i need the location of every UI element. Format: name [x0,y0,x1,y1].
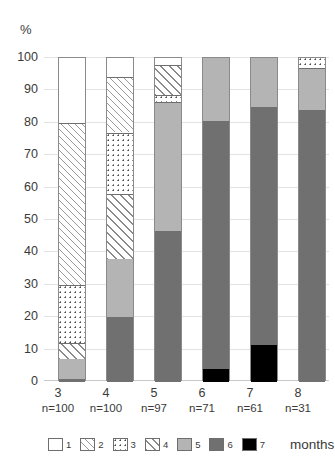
gridline-60 [44,187,329,188]
segment-6 [155,231,181,382]
segment-5 [155,102,181,232]
dotted-swatch-icon [113,438,128,451]
legend-item-2[interactable]: 2 [80,438,103,451]
segment-1 [107,58,133,77]
segment-5 [299,68,325,110]
bar-month-4[interactable] [106,57,134,381]
y-tick-50: 50 [8,212,38,226]
black-swatch-icon [242,438,257,451]
segment-3 [299,58,325,68]
legend-item-7[interactable]: 7 [242,438,265,451]
segment-3 [59,285,85,343]
y-tick-80: 80 [8,115,38,129]
gridline-20 [44,316,329,317]
segment-4 [107,194,133,259]
y-tick-40: 40 [8,244,38,258]
y-tick-100: 100 [8,50,38,64]
segment-5 [203,58,229,121]
x-label-month-8: 8 n=31 [268,386,328,416]
gridline-90 [44,89,329,90]
bar-month-7[interactable] [250,57,278,381]
bar-month-5[interactable] [154,57,182,381]
legend-item-4[interactable]: 4 [145,438,168,451]
legend-label: 4 [163,439,168,450]
legend-label: 7 [260,439,265,450]
legend-label: 5 [195,439,200,450]
gridline-30 [44,284,329,285]
legend-item-5[interactable]: 5 [177,438,200,451]
y-tick-90: 90 [8,82,38,96]
gridline-80 [44,122,329,123]
segment-2 [59,123,85,285]
segment-5 [107,259,133,317]
segment-3 [107,133,133,195]
bar-month-3[interactable] [58,57,86,381]
segment-2 [107,77,133,132]
y-tick-20: 20 [8,309,38,323]
segment-4 [155,65,181,96]
bar-month-8[interactable] [298,57,326,381]
segment-1 [59,58,85,123]
y-tick-10: 10 [8,342,38,356]
bold-hatch-swatch-icon [145,438,160,451]
gridline-70 [44,154,329,155]
segment-7 [251,345,277,382]
legend-item-6[interactable]: 6 [209,438,232,451]
segment-6 [203,121,229,369]
dark-gray-swatch-icon [209,438,224,451]
segment-6 [251,107,277,345]
legend-item-3[interactable]: 3 [113,438,136,451]
segment-6 [59,379,85,382]
stacked-bar-chart: % 100 90 80 70 60 50 40 30 20 10 0 [0,0,335,472]
y-axis-unit-label: % [20,22,32,37]
segment-5 [251,58,277,107]
segment-7 [203,369,229,382]
segment-6 [107,317,133,382]
segment-4 [59,343,85,359]
segment-5 [59,359,85,378]
x-category-label: 8 [268,386,328,401]
legend-title: months [290,437,334,452]
y-tick-30: 30 [8,277,38,291]
white-swatch-icon [48,438,63,451]
gridline-40 [44,251,329,252]
gridline-10 [44,349,329,350]
legend-label: 1 [66,439,71,450]
y-tick-70: 70 [8,147,38,161]
chart-legend: 1 2 3 4 5 6 7 months [48,437,334,452]
gridline-0 [44,380,329,381]
gridline-50 [44,219,329,220]
legend-label: 6 [227,439,232,450]
legend-item-1[interactable]: 1 [48,438,71,451]
legend-label: 3 [131,439,136,450]
segment-6 [299,110,325,382]
light-gray-swatch-icon [177,438,192,451]
y-tick-60: 60 [8,180,38,194]
y-axis-tick-labels: 100 90 80 70 60 50 40 30 20 10 0 [0,57,38,381]
legend-label: 2 [98,439,103,450]
plot-area [44,57,329,381]
gridline-100 [44,57,329,58]
x-sample-size-label: n=31 [268,401,328,416]
bar-month-6[interactable] [202,57,230,381]
fine-hatch-swatch-icon [80,438,95,451]
